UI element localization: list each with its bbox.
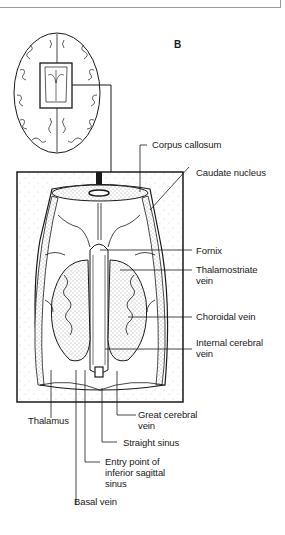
label-great-cerebral-vein-1: Great cerebral [138, 409, 197, 420]
label-straight-sinus: Straight sinus [123, 437, 179, 448]
label-internal-cerebral-vein-2: vein [196, 348, 213, 359]
label-caudate-nucleus: Caudate nucleus [196, 167, 266, 178]
label-corpus-callosum: Corpus callosum [152, 139, 221, 150]
label-entry-point-2: inferior sagittal [105, 467, 165, 478]
main-enlarged-view [17, 172, 183, 402]
label-internal-cerebral-vein-1: Internal cerebral [196, 337, 263, 348]
label-fornix: Fornix [196, 245, 222, 256]
label-choroidal-vein: Choroidal vein [196, 311, 255, 322]
label-thalamostriate-vein-2: vein [196, 275, 213, 286]
label-entry-point-1: Entry point of [105, 456, 160, 467]
panel-letter: B [174, 39, 181, 50]
label-thalamostriate-vein-1: Thalamostriate [196, 264, 257, 275]
label-thalamus: Thalamus [28, 415, 69, 426]
label-great-cerebral-vein-2: vein [138, 420, 155, 431]
label-basal-vein: Basal vein [74, 496, 117, 507]
brain-overview [14, 33, 100, 153]
label-entry-point-3: sinus [105, 478, 127, 489]
